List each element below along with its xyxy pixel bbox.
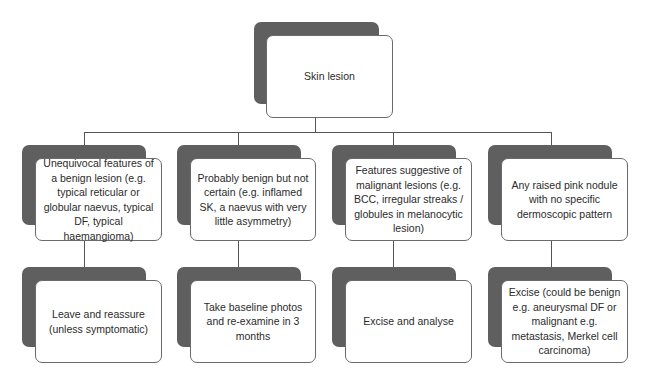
action-node-excise: Excise (could be benign e.g. aneurysmal … [501, 280, 628, 363]
root-node-label: Skin lesion [304, 69, 355, 84]
action-label: Excise and analyse [363, 314, 453, 329]
action-node-leave: Leave and reassure (unless symptomatic) [35, 280, 162, 363]
category-node-probably-benign: Probably benign but not certain (e.g. in… [190, 158, 316, 241]
action-label: Leave and reassure (unless symptomatic) [41, 307, 156, 336]
drop-connector-1 [84, 132, 85, 145]
root-connector [315, 118, 316, 133]
category-label: Unequivocal features of a benign lesion … [41, 156, 156, 243]
category-label: Any raised pink nodule with no specific … [507, 178, 622, 222]
action-node-photos: Take baseline photos and re-examine in 3… [190, 280, 316, 363]
action-connector-2 [238, 241, 239, 267]
action-connector-1 [84, 241, 85, 267]
action-node-excise-analyse: Excise and analyse [345, 280, 472, 363]
action-connector-4 [551, 241, 552, 267]
category-label: Features suggestive of malignant lesions… [351, 163, 466, 236]
category-label: Probably benign but not certain (e.g. in… [196, 171, 310, 229]
drop-connector-2 [238, 132, 239, 145]
action-label: Take baseline photos and re-examine in 3… [196, 300, 310, 344]
category-node-benign: Unequivocal features of a benign lesion … [35, 158, 162, 241]
horizontal-connector [84, 132, 552, 133]
root-node: Skin lesion [266, 35, 393, 118]
category-node-pink-nodule: Any raised pink nodule with no specific … [501, 158, 628, 241]
drop-connector-4 [551, 132, 552, 145]
action-connector-3 [393, 241, 394, 267]
category-node-malignant: Features suggestive of malignant lesions… [345, 158, 472, 241]
drop-connector-3 [393, 132, 394, 145]
action-label: Excise (could be benign e.g. aneurysmal … [507, 285, 622, 358]
